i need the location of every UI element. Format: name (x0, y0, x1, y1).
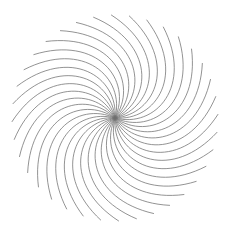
swirl-strand (17, 67, 115, 118)
swirl-strand (115, 118, 217, 160)
swirl-strand (38, 109, 115, 187)
swirl-strand (115, 97, 216, 145)
swirl-figure (0, 0, 230, 233)
swirl-strand (94, 17, 142, 118)
swirl-strand (115, 20, 166, 118)
swirl-strand (46, 41, 124, 118)
swirl-strand (115, 118, 213, 169)
swirl-strand (64, 118, 115, 216)
swirl-strand (115, 49, 192, 127)
swirl-strand (115, 16, 157, 118)
swirl-strand (88, 118, 136, 219)
swirl-strand (73, 118, 115, 220)
strand-group (12, 15, 218, 221)
swirl-strand (14, 91, 115, 139)
swirl-strand (106, 118, 184, 195)
swirl-pattern-graphic (0, 0, 230, 233)
swirl-strand (13, 76, 115, 118)
